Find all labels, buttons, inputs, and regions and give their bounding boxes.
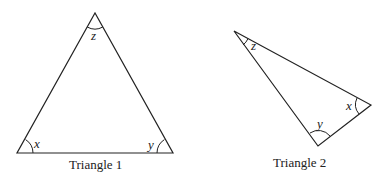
triangle-1-caption: Triangle 1 [69, 157, 122, 172]
angle-y-label: y [146, 137, 154, 152]
triangle-2-caption: Triangle 2 [273, 155, 326, 170]
triangles-diagram: x y z Triangle 1 z x y Triangle 2 [0, 0, 389, 179]
triangle-1: x y z Triangle 1 [17, 13, 173, 172]
angle-x-arc [356, 98, 359, 114]
angle-y-arc [310, 130, 330, 136]
angle-z-label: z [250, 38, 256, 53]
angle-z-label: z [90, 28, 96, 43]
angle-x-arc [26, 140, 33, 153]
angle-y-arc [157, 140, 164, 153]
triangle-2: z x y Triangle 2 [234, 31, 371, 170]
angle-y-label: y [315, 116, 323, 131]
angle-x-label: x [345, 98, 352, 113]
angle-z-arc [243, 39, 248, 45]
angle-x-label: x [33, 136, 40, 151]
